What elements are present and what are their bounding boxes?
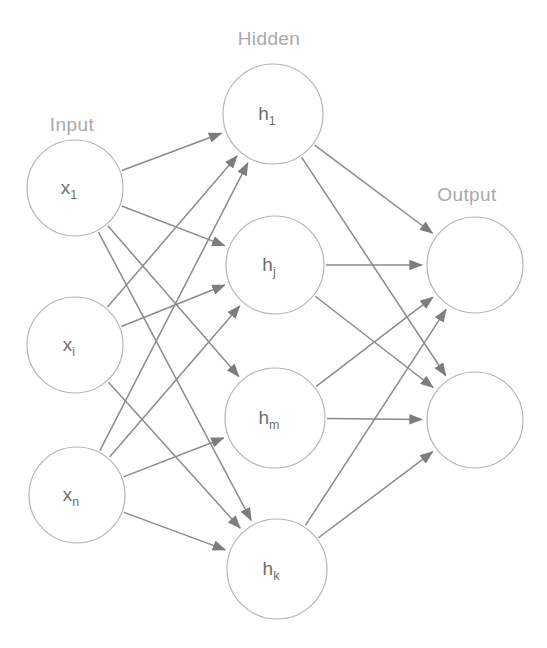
edge-x1-to-hm <box>108 226 239 377</box>
layer-label-hidden: Hidden <box>238 28 301 49</box>
node-subscript-xn: n <box>72 495 79 509</box>
node-hk[interactable]: hk <box>227 519 327 619</box>
edge-xn-to-hk <box>124 512 226 550</box>
edge-xi-to-h1 <box>108 156 238 307</box>
node-circle-o1[interactable] <box>427 217 523 313</box>
network-canvas: x1xixnh1hjhmhk InputHiddenOutput <box>0 0 547 648</box>
node-xn[interactable]: xn <box>29 447 125 543</box>
node-subscript-hj: j <box>272 265 276 279</box>
edge-xn-to-hj <box>110 306 240 457</box>
node-o2[interactable] <box>427 372 523 468</box>
edge-hk-to-o2 <box>319 452 433 538</box>
node-hj[interactable]: hj <box>226 216 324 314</box>
layer-label-input: Input <box>50 114 95 135</box>
node-circle-o2[interactable] <box>427 372 523 468</box>
layer-label-output: Output <box>437 184 497 205</box>
node-subscript-hm: m <box>269 418 279 432</box>
edge-h1-to-o1 <box>315 145 433 233</box>
node-subscript-x1: 1 <box>70 188 77 202</box>
node-xi[interactable]: xi <box>27 297 123 393</box>
edge-xn-to-hm <box>124 438 224 477</box>
node-o1[interactable] <box>427 217 523 313</box>
node-subscript-hk: k <box>273 569 280 583</box>
edges-group <box>98 133 446 550</box>
node-hm[interactable]: hm <box>225 368 325 468</box>
nodes-group: x1xixnh1hjhmhk <box>27 64 523 619</box>
node-h1[interactable]: h1 <box>223 64 323 164</box>
neural-network-diagram: x1xixnh1hjhmhk InputHiddenOutput <box>0 0 547 648</box>
edge-xi-to-hk <box>108 382 240 528</box>
node-subscript-xi: i <box>72 345 75 359</box>
node-x1[interactable]: x1 <box>27 140 123 236</box>
edge-x1-to-h1 <box>122 133 222 170</box>
node-subscript-h1: 1 <box>269 114 276 128</box>
